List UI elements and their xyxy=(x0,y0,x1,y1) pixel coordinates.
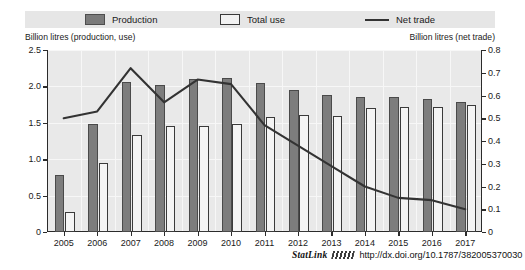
chart-page: Production Total use Net trade Billion l… xyxy=(0,0,525,270)
legend-label-net-trade: Net trade xyxy=(396,14,435,25)
statlink-label: StatLink xyxy=(292,250,327,260)
y-axis-tick-left xyxy=(43,159,47,160)
production-swatch-icon xyxy=(85,14,105,25)
y-axis-label-left-1.5: 1.5 xyxy=(17,118,41,128)
y-axis-label-right-0.3: 0.3 xyxy=(488,159,514,169)
net-trade-polyline xyxy=(64,68,466,209)
y-axis-tick-right xyxy=(482,164,486,165)
x-axis-tick-2009 xyxy=(198,232,199,236)
x-axis-label-2015: 2015 xyxy=(388,238,408,248)
y-axis-tick-right xyxy=(482,73,486,74)
x-axis-label-2006: 2006 xyxy=(87,238,107,248)
y-axis-label-right-0.8: 0.8 xyxy=(488,45,514,55)
y-axis-label-left-0: 0 xyxy=(17,227,41,237)
right-axis-caption: Billion litres (net trade) xyxy=(410,32,496,42)
y-axis-label-right-0.4: 0.4 xyxy=(488,136,514,146)
x-axis-tick-2015 xyxy=(398,232,399,236)
y-axis-label-right-0.1: 0.1 xyxy=(488,204,514,214)
x-axis-label-2005: 2005 xyxy=(54,238,74,248)
x-axis-tick-2013 xyxy=(331,232,332,236)
total-use-swatch-icon xyxy=(220,14,240,25)
y-axis-tick-right xyxy=(482,96,486,97)
y-axis-tick-right xyxy=(482,118,486,119)
y-axis-label-right-0.2: 0.2 xyxy=(488,182,514,192)
x-axis-tick-2006 xyxy=(97,232,98,236)
y-axis-tick-right xyxy=(482,232,486,233)
x-axis-label-2007: 2007 xyxy=(121,238,141,248)
legend-label-production: Production xyxy=(112,14,157,25)
y-axis-tick-right xyxy=(482,209,486,210)
y-axis-tick-left xyxy=(43,86,47,87)
net-trade-line-icon xyxy=(365,19,389,21)
doi-link[interactable]: http://dx.doi.org/10.1787/382005370030 xyxy=(359,250,522,260)
x-axis-label-2013: 2013 xyxy=(321,238,341,248)
legend-item-net-trade: Net trade xyxy=(365,14,435,25)
y-axis-tick-left xyxy=(43,123,47,124)
x-axis-label-2010: 2010 xyxy=(221,238,241,248)
y-axis-label-left-2.0: 2.0 xyxy=(17,81,41,91)
x-axis-label-2014: 2014 xyxy=(355,238,375,248)
x-axis-label-2017: 2017 xyxy=(455,238,475,248)
x-axis-tick-2010 xyxy=(231,232,232,236)
net-trade-line-layer xyxy=(47,50,482,232)
y-axis-tick-right xyxy=(482,50,486,51)
x-axis-label-2016: 2016 xyxy=(422,238,442,248)
y-axis-tick-right xyxy=(482,187,486,188)
x-axis-tick-2012 xyxy=(298,232,299,236)
x-axis-label-2009: 2009 xyxy=(188,238,208,248)
y-axis-label-right-0.5: 0.5 xyxy=(488,113,514,123)
x-axis-label-2011: 2011 xyxy=(255,238,274,248)
x-axis-tick-2005 xyxy=(64,232,65,236)
y-axis-label-left-1.0: 1.0 xyxy=(17,154,41,164)
y-axis-tick-right xyxy=(482,141,486,142)
y-axis-label-left-0.5: 0.5 xyxy=(17,191,41,201)
legend-item-production: Production xyxy=(85,14,157,25)
x-axis-tick-2008 xyxy=(164,232,165,236)
x-axis-tick-2007 xyxy=(131,232,132,236)
x-axis-label-2008: 2008 xyxy=(154,238,174,248)
y-axis-label-right-0.6: 0.6 xyxy=(488,91,514,101)
x-axis-label-2012: 2012 xyxy=(288,238,308,248)
x-axis-tick-2011 xyxy=(265,232,266,236)
y-axis-tick-left xyxy=(43,196,47,197)
x-axis-tick-2017 xyxy=(465,232,466,236)
statlink-barcode-icon xyxy=(332,251,356,259)
chart-legend: Production Total use Net trade xyxy=(25,11,495,28)
statlink-footer: StatLink http://dx.doi.org/10.1787/38200… xyxy=(292,250,522,260)
y-axis-tick-left xyxy=(43,50,47,51)
y-axis-label-right-0: 0 xyxy=(488,227,514,237)
y-axis-label-left-2.5: 2.5 xyxy=(17,45,41,55)
legend-item-total-use: Total use xyxy=(220,14,285,25)
x-axis-tick-2016 xyxy=(432,232,433,236)
left-axis-caption: Billion litres (production, use) xyxy=(25,32,135,42)
legend-label-total-use: Total use xyxy=(247,14,285,25)
x-axis-tick-2014 xyxy=(365,232,366,236)
y-axis-label-right-0.7: 0.7 xyxy=(488,68,514,78)
y-axis-tick-left xyxy=(43,232,47,233)
